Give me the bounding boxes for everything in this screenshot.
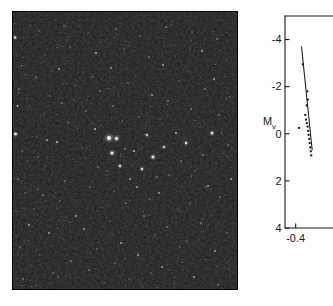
background-star <box>230 141 231 142</box>
background-star <box>132 280 133 281</box>
background-star <box>126 83 127 84</box>
background-star <box>37 188 38 189</box>
background-star <box>127 185 128 186</box>
background-star <box>201 137 202 138</box>
background-star <box>16 214 17 215</box>
background-star <box>46 166 47 167</box>
background-star <box>216 220 217 221</box>
star <box>124 148 126 150</box>
background-star <box>177 246 178 247</box>
background-star <box>93 47 94 48</box>
background-star <box>139 111 140 112</box>
background-star <box>207 167 208 168</box>
star <box>180 160 182 162</box>
background-star <box>213 31 214 32</box>
background-star <box>158 100 159 101</box>
background-star <box>120 156 121 157</box>
background-star <box>119 120 120 121</box>
background-star <box>123 156 124 157</box>
background-star <box>28 12 29 13</box>
background-star <box>89 96 90 97</box>
background-star <box>171 273 172 274</box>
background-star <box>131 28 132 29</box>
background-star <box>149 201 150 202</box>
background-star <box>219 230 220 231</box>
background-star <box>195 226 196 227</box>
background-star <box>78 69 79 70</box>
background-star <box>28 24 29 25</box>
background-star <box>59 136 60 137</box>
background-star <box>112 160 113 161</box>
background-star <box>232 46 233 47</box>
background-star <box>120 164 121 165</box>
background-star <box>44 164 45 165</box>
background-star <box>83 81 84 82</box>
background-star <box>169 270 170 271</box>
background-star <box>72 14 73 15</box>
background-star <box>57 47 58 48</box>
background-star <box>46 51 47 52</box>
star <box>109 220 110 221</box>
background-star <box>166 128 167 129</box>
background-star <box>182 173 183 174</box>
background-star <box>90 162 91 163</box>
star <box>199 126 200 127</box>
color-magnitude-diagram: -4-2024 -0.4 M v <box>262 8 333 258</box>
background-star <box>206 63 207 64</box>
background-star <box>210 262 211 263</box>
background-star <box>217 266 218 267</box>
background-star <box>141 148 142 149</box>
background-star <box>108 88 109 89</box>
background-star <box>68 155 69 156</box>
background-star <box>57 149 58 150</box>
background-star <box>90 253 91 254</box>
background-star <box>163 78 164 79</box>
background-star <box>122 237 123 238</box>
background-star <box>168 124 169 125</box>
data-point <box>310 154 312 156</box>
background-star <box>64 58 65 59</box>
background-star <box>26 281 27 282</box>
star <box>217 284 219 286</box>
background-star <box>41 205 42 206</box>
background-star <box>75 126 76 127</box>
star <box>103 282 104 283</box>
y-tick-label: -2 <box>272 80 282 92</box>
background-star <box>86 147 87 148</box>
background-star <box>24 208 25 209</box>
background-star <box>155 144 156 145</box>
background-star <box>159 117 160 118</box>
background-star <box>161 38 162 39</box>
background-star <box>37 213 38 214</box>
background-star <box>147 142 148 143</box>
background-star <box>31 286 32 287</box>
star <box>115 28 117 30</box>
background-star <box>146 15 147 16</box>
background-star <box>101 226 102 227</box>
background-star <box>195 263 196 264</box>
background-star <box>47 93 48 94</box>
background-star <box>99 188 100 189</box>
star <box>107 136 111 140</box>
background-star <box>149 238 150 239</box>
data-point <box>306 104 308 106</box>
background-star <box>65 275 66 276</box>
background-star <box>20 16 21 17</box>
background-star <box>34 223 35 224</box>
star <box>178 80 179 81</box>
background-star <box>55 253 56 254</box>
data-point <box>309 142 311 144</box>
background-star <box>64 82 65 83</box>
background-star <box>92 123 93 124</box>
background-star <box>32 221 33 222</box>
background-star <box>231 148 232 149</box>
background-star <box>135 46 136 47</box>
background-star <box>153 74 154 75</box>
background-star <box>173 210 174 211</box>
background-star <box>202 119 203 120</box>
star <box>61 102 63 104</box>
star <box>15 210 16 211</box>
background-star <box>104 171 105 172</box>
background-star <box>147 112 148 113</box>
star <box>142 286 143 287</box>
